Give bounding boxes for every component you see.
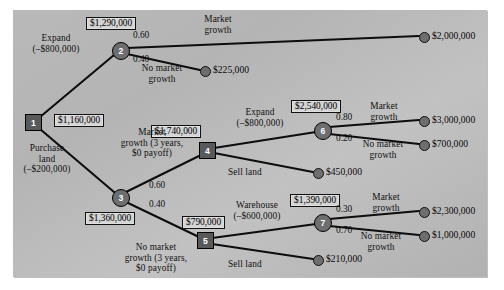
payoff-700000: $700,000 [432,138,468,149]
label-expand-from-4: Expand(–$800,000) [224,107,296,128]
decision-node-1[interactable]: 1 [25,114,42,131]
label-market-growth-from-2: Marketgrowth [188,14,248,35]
value-box-node-2: $1,290,000 [86,17,136,30]
terminal-node-450000 [313,168,324,179]
edge-4-to-6 [214,132,316,148]
terminal-node-2300000 [419,207,430,218]
label-market-growth-3yr-from-3: Marketgrowth (3 years,$0 payoff) [110,127,194,159]
edge-2-to-2000000 [127,36,419,48]
label-expand-from-1: Expand(–$800,000) [20,33,92,54]
label-no-market-growth-from-6: No marketgrowth [348,139,418,160]
terminal-node-700000 [419,140,430,151]
label-sell-land-from-4: Sell land [228,167,262,178]
payoff-1000000: $1,000,000 [432,229,475,240]
edge-5-to-210000 [212,244,313,259]
terminal-node-3000000 [419,116,430,127]
payoff-210000: $210,000 [326,253,362,264]
probability-node-3-growth: 0.60 [149,180,165,190]
label-warehouse-from-5: Warehouse(–$600,000) [218,200,296,221]
terminal-node-2000000 [419,32,430,43]
label-sell-land-from-5: Sell land [228,259,262,270]
label-market-growth-from-7: Marketgrowth [358,192,414,213]
terminal-node-225000 [200,66,211,77]
chance-node-6[interactable]: 6 [314,122,332,140]
chance-node-2[interactable]: 2 [112,42,130,60]
decision-node-4[interactable]: 4 [199,142,216,159]
probability-node-7-growth: 0.30 [336,204,352,214]
payoff-225000: $225,000 [213,64,249,75]
label-no-market-growth-from-2: No marketgrowth [126,63,198,84]
terminal-node-210000 [313,255,324,266]
probability-node-3-no-growth: 0.40 [149,199,165,209]
chance-node-3[interactable]: 3 [112,189,130,207]
value-box-node-7: $1,390,000 [290,194,340,207]
payoff-3000000: $3,000,000 [432,114,475,125]
chance-node-7[interactable]: 7 [314,214,332,232]
label-no-market-growth-from-7: No marketgrowth [346,231,416,252]
probability-node-2-growth: 0.60 [133,30,149,40]
value-box-node-3: $1,360,000 [85,212,135,225]
label-no-market-growth-3yr-from-3: No marketgrowth (3 years,$0 payoff) [110,242,202,274]
label-purchase-land-from-1: Purchaseland(–$200,000) [8,143,86,175]
probability-node-6-growth: 0.80 [336,112,352,122]
label-market-growth-from-6: Marketgrowth [356,101,412,122]
payoff-2300000: $2,300,000 [432,205,475,216]
terminal-node-1000000 [419,231,430,242]
decision-tree-figure: 1 2 3 4 5 6 7 $2,000,000 $225,000 $3,000… [0,0,504,290]
value-box-node-1: $1,160,000 [54,114,104,127]
value-box-node-6: $2,540,000 [291,100,341,113]
edge-1-to-2 [40,55,114,117]
payoff-2000000: $2,000,000 [432,30,475,41]
payoff-450000: $450,000 [326,166,362,177]
edge-5-to-7 [212,224,316,238]
